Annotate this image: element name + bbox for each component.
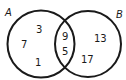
set-a-value: 3 <box>36 24 42 35</box>
intersection-value: 9 <box>62 31 68 42</box>
set-b-label: B <box>116 9 123 20</box>
set-b-circle <box>55 11 121 77</box>
set-b-value: 13 <box>94 33 107 44</box>
venn-diagram: A B 3 7 1 9 5 13 17 <box>0 0 126 80</box>
set-a-value: 1 <box>35 57 41 68</box>
set-a-value: 7 <box>21 39 27 50</box>
intersection-value: 5 <box>62 46 68 57</box>
set-b-value: 17 <box>81 54 94 65</box>
set-a-label: A <box>4 7 12 18</box>
